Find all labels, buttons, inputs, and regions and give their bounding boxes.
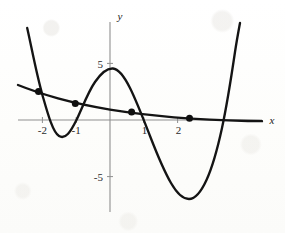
x-tick-label--1: -1: [72, 124, 81, 136]
y-axis-label: y: [117, 10, 123, 22]
x-tick-label-2: 2: [176, 124, 182, 136]
y-tick-label-5: 5: [98, 58, 104, 70]
plot-canvas: -2 -1 1 2 5 -5 y x: [0, 0, 285, 233]
intersection-point-3: [128, 109, 135, 116]
intersection-point-4: [186, 115, 193, 122]
intersection-point-2: [72, 100, 79, 107]
x-tick-label--2: -2: [38, 124, 47, 136]
intersection-point-1: [35, 88, 42, 95]
x-axis-label: x: [269, 114, 275, 126]
graph-figure: -2 -1 1 2 5 -5 y x: [0, 0, 285, 233]
y-tick-label--5: -5: [94, 171, 104, 183]
x-tick-label-1: 1: [142, 124, 148, 136]
